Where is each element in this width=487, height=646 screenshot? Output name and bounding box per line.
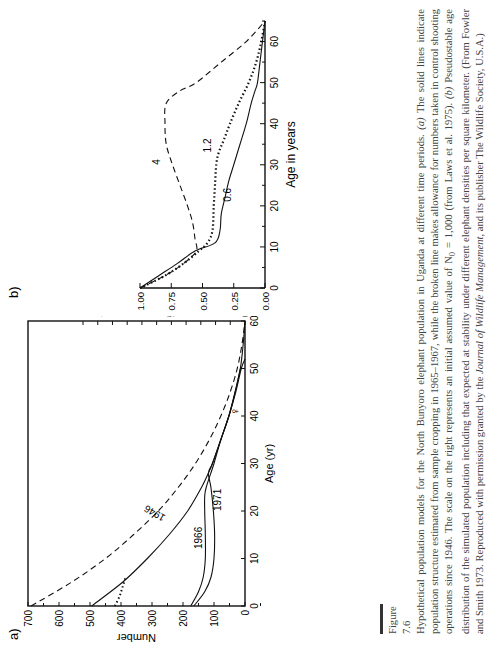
x-tick-label: 50: [269, 77, 280, 89]
x-tick-label: 0: [269, 285, 280, 291]
x-tick-label: 20: [269, 200, 280, 212]
x-tick-label: 40: [249, 410, 260, 422]
series-label-4: 4: [151, 159, 162, 165]
caption-part: Journal of Wildlife Management: [474, 236, 485, 373]
y-tick-label: 100: [209, 610, 220, 627]
figure-label: Figure 7.6: [380, 604, 414, 634]
caption-part: (b): [443, 87, 454, 99]
caption-part: = 1,000 (from Laws et al. 1975).: [443, 99, 454, 252]
x-tick-label: 60: [269, 36, 280, 48]
y-tick-label: 0.00: [260, 292, 271, 311]
y-tick-label: 0.50: [198, 292, 209, 311]
y-tick-label: 0.75: [166, 292, 177, 311]
caption-part: 0: [447, 252, 457, 256]
y2-tick-label: 500: [166, 316, 177, 317]
y-tick-label: 0.25: [229, 292, 240, 311]
caption-part: (a): [415, 117, 426, 129]
x-tick-label: 30: [269, 159, 280, 171]
chart-b: b)01020304050600.000.250.500.751.00Age i…: [0, 16, 300, 316]
panel-label: a): [6, 628, 21, 640]
x-tick-label: 20: [249, 505, 260, 517]
panel-label: b): [6, 286, 21, 298]
y2-tick-label: 1000: [93, 316, 104, 317]
series-label-1946: 1946: [142, 503, 167, 524]
y2-tick-label: 0: [240, 316, 251, 317]
y-tick-label: 200: [178, 610, 189, 627]
x-tick-label: 10: [269, 241, 280, 253]
series-label-0.6: 0.6: [222, 187, 233, 201]
y-tick-label: 1.00: [135, 292, 146, 311]
x-tick-label: 50: [249, 363, 260, 375]
figure-caption: Figure 7.6 Hypothetical population model…: [380, 9, 487, 634]
caption-part: , and its publisher The Wildlife Society…: [474, 33, 485, 236]
series-label-1.2: 1.2: [202, 138, 213, 152]
y-tick-label: 0: [240, 610, 251, 616]
x-tick-label: 0: [249, 603, 260, 609]
x-tick-label: 30: [249, 458, 260, 470]
y-tick-label: 500: [85, 610, 96, 627]
series-line: [115, 578, 126, 607]
y-axis-label: Number: [117, 632, 156, 644]
x-axis-label: Age (yr): [263, 444, 275, 483]
series-line: [140, 21, 265, 288]
series-line: [194, 359, 245, 606]
x-axis-label: Age in years: [284, 121, 298, 188]
series-line: [92, 321, 245, 606]
caption-part: Hypothetical population models for the N…: [415, 130, 426, 634]
y-tick-label: 700: [23, 610, 34, 627]
y-tick-label: 400: [116, 610, 127, 627]
caption-text: Hypothetical population models for the N…: [414, 9, 487, 634]
series-label-1971: 1971: [212, 488, 223, 511]
female-symbol: ♀: [228, 407, 242, 416]
y-tick-label: 300: [147, 610, 158, 627]
chart-a: a)01020304050600100200300400500600700050…: [0, 316, 300, 646]
x-tick-label: 10: [249, 553, 260, 565]
y-tick-label: 600: [54, 610, 65, 627]
x-tick-label: 60: [249, 316, 260, 327]
x-tick-label: 40: [269, 118, 280, 130]
series-label-1966: 1966: [193, 526, 204, 549]
